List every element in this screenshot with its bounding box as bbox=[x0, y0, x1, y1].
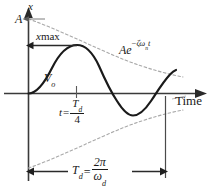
period-denominator-subscript: d bbox=[102, 179, 106, 188]
exponent-t: t bbox=[148, 39, 150, 48]
period-left-arrowhead bbox=[26, 168, 34, 176]
amplitude-label: A bbox=[15, 13, 22, 25]
x-max-subscript-text: max bbox=[41, 30, 60, 42]
period-symbol-subscript: d bbox=[79, 172, 83, 181]
envelope-equation-label: Ae−ζωnt bbox=[119, 43, 150, 56]
damped-period-equation: Td = 2π ωd bbox=[72, 157, 108, 187]
quarter-period-equation: t = Td 4 bbox=[59, 99, 84, 126]
period-denominator-omega: ω bbox=[94, 169, 102, 183]
period-right-arrowhead bbox=[160, 168, 168, 176]
period-fraction: 2π ωd bbox=[92, 156, 109, 186]
period-symbol-group: Td bbox=[72, 164, 83, 180]
y-axis-label: x bbox=[28, 1, 33, 12]
quarter-time-numerator: Td bbox=[70, 98, 84, 113]
quarter-time-equals: = bbox=[63, 107, 69, 118]
quarter-time-symbol: t bbox=[59, 107, 62, 118]
initial-velocity-label: Vo bbox=[44, 72, 55, 88]
quarter-time-fraction: Td 4 bbox=[70, 98, 84, 125]
x-axis-label: Time bbox=[175, 94, 202, 107]
quarter-time-denominator: 4 bbox=[70, 114, 84, 126]
xmax-measure-arrowhead bbox=[26, 42, 34, 49]
damped-vibration-figure: x A xmax Vo Ae−ζωnt Time t = Td 4 Td = 2… bbox=[0, 0, 219, 192]
envelope-exponent: −ζωnt bbox=[132, 39, 151, 48]
period-numerator: 2π bbox=[92, 156, 109, 170]
period-symbol-T: T bbox=[72, 163, 79, 177]
x-max-label: xmax bbox=[36, 31, 60, 42]
exponent-omega-subscript: n bbox=[145, 45, 148, 51]
envelope-base-text: Ae bbox=[119, 43, 132, 57]
initial-velocity-subscript: o bbox=[51, 80, 55, 89]
quarter-time-numerator-subscript: d bbox=[78, 105, 82, 114]
period-equals: = bbox=[84, 166, 91, 178]
period-denominator: ωd bbox=[92, 170, 109, 186]
